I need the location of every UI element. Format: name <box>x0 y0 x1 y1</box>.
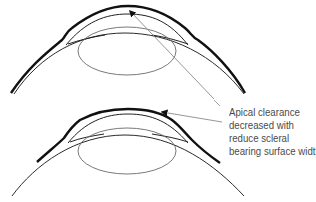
annotation-connector <box>214 100 220 106</box>
bottom-iris-right <box>152 134 188 142</box>
bottom-eye-diagram <box>12 109 244 196</box>
bottom-cornea-curve <box>12 135 244 196</box>
annotation-line-2: decreased with <box>229 119 316 132</box>
diagram-canvas <box>0 0 316 202</box>
annotation-line-3: reduce scleral <box>229 132 316 145</box>
top-cornea-curve <box>14 33 244 94</box>
annotation-line-1: Apical clearance <box>229 106 316 119</box>
annotation-line-4: bearing surface width <box>229 145 316 158</box>
top-eye-diagram <box>11 6 245 99</box>
top-crystalline-lens <box>78 27 176 75</box>
top-scleral-lens <box>11 6 245 93</box>
annotation-text: Apical clearance decreased with reduce s… <box>229 106 316 158</box>
